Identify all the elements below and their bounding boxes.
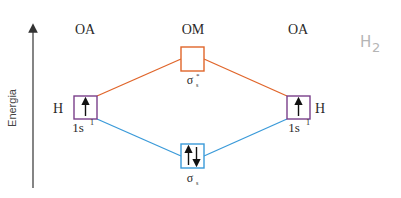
molecular-orbital-bonding: σ s	[181, 144, 204, 186]
orbital-label-right: 1s	[288, 120, 300, 135]
energy-axis: Energia	[6, 28, 33, 188]
column-header-right: OA	[288, 22, 309, 37]
antibonding-line-right	[204, 59, 287, 96]
antibonding-label: σ	[187, 73, 194, 87]
atomic-orbital-right: H 1s 1	[287, 96, 325, 135]
antibonding-box	[181, 47, 204, 71]
antibonding-line-left	[97, 59, 181, 96]
orbital-superscript-right: 1	[306, 118, 310, 127]
bonding-box	[181, 144, 204, 168]
column-header-left: OA	[75, 22, 96, 37]
column-header-center: OM	[182, 22, 205, 37]
axis-label: Energia	[6, 88, 18, 127]
antibonding-superscript: *	[196, 72, 200, 80]
orbital-label-left: 1s	[72, 120, 84, 135]
antibonding-subscript: s	[196, 82, 199, 88]
note-subscript: 2	[372, 40, 380, 55]
bonding-label: σ	[187, 171, 194, 185]
mo-diagram: Energia OA OM OA H 2 H 1s 1 H 1s 1 σ * s	[0, 0, 401, 198]
orbital-superscript-left: 1	[90, 118, 94, 127]
bonding-subscript: s	[196, 180, 199, 186]
atom-symbol-right: H	[315, 101, 325, 116]
atom-symbol-left: H	[53, 101, 63, 116]
orbital-name: 1s	[72, 120, 84, 135]
bonding-line-left	[97, 119, 181, 156]
note-symbol: H	[360, 33, 371, 51]
bonding-line-right	[204, 119, 287, 156]
molecular-orbital-antibonding: σ * s	[181, 47, 204, 88]
atomic-orbital-left: H 1s 1	[53, 96, 97, 135]
h2-note: H 2	[360, 33, 380, 55]
orbital-name: 1s	[288, 120, 300, 135]
